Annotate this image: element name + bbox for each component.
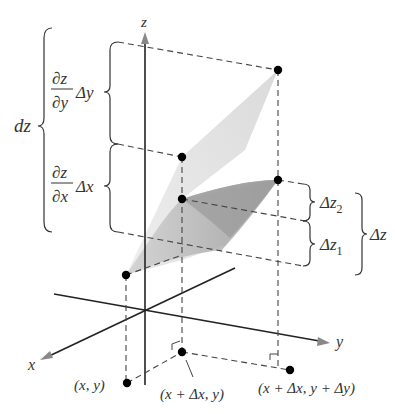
dzdy-denominator: ∂y: [52, 93, 68, 112]
floor-point-dx: [178, 348, 186, 356]
y-axis-label: y: [334, 333, 344, 351]
dz2-label: Δz2: [319, 193, 343, 216]
x-axis-arrow: [40, 351, 53, 360]
z-axis-arrow: [141, 32, 149, 44]
surface-point-xy: [122, 271, 130, 279]
floor-point-xy: [123, 379, 131, 387]
dz1-label: Δz1: [319, 235, 343, 258]
plane-point-dx: [178, 153, 186, 161]
surface-point-dxdy: [274, 176, 282, 184]
total-differential-diagram: z y x dz ∂z ∂y Δy ∂z ∂x Δx Δz2 Δz1 Δz (x…: [0, 0, 395, 414]
left-braces: [38, 28, 118, 232]
dzdx-factor: Δx: [75, 177, 94, 196]
plane-point-dxdy: [274, 66, 282, 74]
y-axis-arrow: [317, 337, 330, 346]
floor-point-dxdy: [286, 366, 294, 374]
point-label-dxdy: (x + Δx, y + Δy): [258, 380, 355, 397]
dz-total-label: Δz: [369, 225, 387, 244]
point-label-dx: (x + Δx, y): [160, 386, 224, 403]
z-axis-label: z: [140, 14, 147, 30]
dz-label: dz: [14, 115, 32, 136]
label-pointer: [186, 360, 193, 377]
dzdy-numerator: ∂z: [52, 69, 67, 88]
x-axis-label: x: [27, 356, 35, 373]
surface-point-dx: [178, 195, 186, 203]
dzdx-numerator: ∂z: [52, 163, 67, 182]
right-angle-marks: [172, 341, 278, 360]
dzdx-denominator: ∂x: [52, 187, 68, 206]
point-label-xy: (x, y): [74, 377, 105, 394]
dzdy-factor: Δy: [75, 83, 94, 102]
